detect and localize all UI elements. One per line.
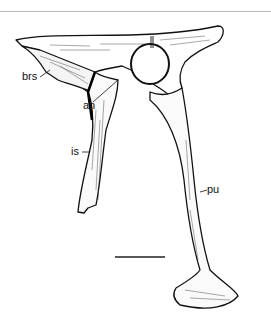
label-is: is (71, 146, 79, 157)
acetabulum (131, 44, 169, 84)
pelvis-drawing (0, 0, 271, 324)
label-pu: pu (207, 184, 219, 195)
label-brs: brs (22, 71, 37, 82)
label-an: an (83, 100, 95, 111)
ischium (78, 72, 118, 213)
pubis (150, 88, 238, 308)
